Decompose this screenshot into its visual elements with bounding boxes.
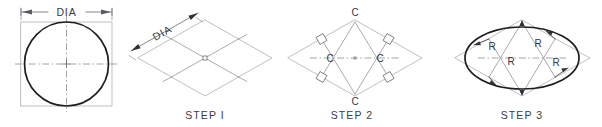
rhombus-center-line-step2 [310,57,400,60]
center-label-right: C [376,53,383,64]
perp-symbol-upper-left [316,34,327,45]
panel-step-2: C C C C STEP 2 [288,7,422,121]
step-label-2: STEP 2 [331,109,374,121]
center-label-bottom: C [351,96,358,107]
radius-label-upper-right: R [534,38,541,49]
radius-label-upper-left: R [488,41,495,52]
center-label-left: C [326,53,333,64]
panel-step-3: R R R R STEP 3 [455,20,590,121]
drawing-sheet: DIA [0,0,602,127]
step-label-3: STEP 3 [501,109,544,121]
center-label-top: C [351,7,358,18]
panel-circle: DIA [15,6,118,112]
panel-step-1: DIA STEP I [129,13,272,121]
technical-drawing-canvas: DIA [0,0,602,127]
radius-label-center-right: R [552,57,559,68]
radius-label-center-left: R [507,56,514,67]
perp-symbol-upper-right [383,34,394,45]
step-label-1: STEP I [185,109,225,121]
perp-symbol-lower-right [383,72,394,83]
perp-symbol-lower-left [316,72,327,83]
center-mark-circle [63,61,70,68]
center-mark-step1 [203,56,207,60]
